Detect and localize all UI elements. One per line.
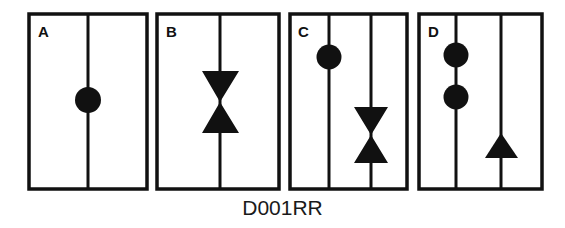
circle-symbol bbox=[444, 43, 469, 68]
circle-symbol bbox=[444, 85, 469, 110]
panel-b: B bbox=[157, 14, 279, 189]
panel-c-label: C bbox=[298, 23, 309, 40]
triangle-up-symbol bbox=[485, 133, 518, 158]
panel-d-label: D bbox=[428, 23, 439, 40]
panel-c-frame bbox=[290, 14, 407, 189]
panel-d-frame bbox=[419, 14, 542, 189]
panel-a: A bbox=[29, 14, 147, 189]
panel-b-label: B bbox=[166, 23, 177, 40]
panel-d: D bbox=[419, 14, 542, 189]
diagram-canvas: A B C D bbox=[0, 0, 565, 228]
circle-symbol bbox=[75, 87, 101, 113]
figure-caption: D001RR bbox=[0, 196, 565, 220]
circle-symbol bbox=[317, 45, 342, 70]
panel-b-frame bbox=[157, 14, 279, 189]
panel-c: C bbox=[290, 14, 407, 189]
panel-a-label: A bbox=[38, 23, 49, 40]
